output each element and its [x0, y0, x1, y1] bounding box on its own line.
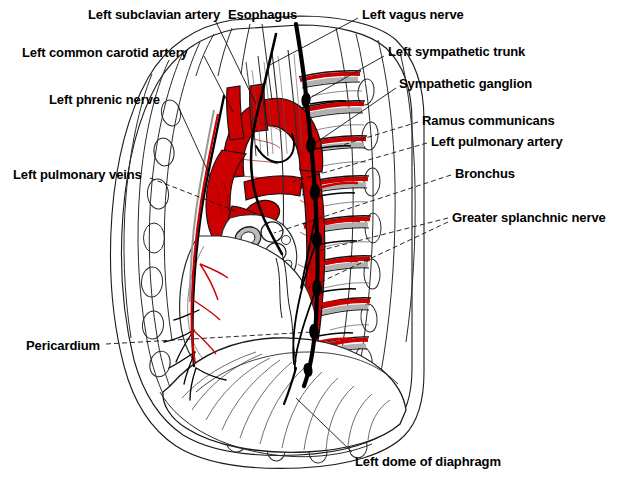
label-left-subclavian-artery: Left subclavian artery [88, 7, 220, 22]
label-left-vagus-nerve: Left vagus nerve [362, 7, 464, 22]
label-left-common-carotid-artery: Left common carotid artery [22, 45, 188, 60]
anatomy-figure-page: Left subclavian artery Esophagus Left va… [0, 0, 620, 477]
label-left-pulmonary-veins: Left pulmonary veins [13, 167, 142, 182]
label-bronchus: Bronchus [455, 166, 515, 181]
mediastinum-illustration [0, 0, 620, 477]
label-sympathetic-ganglion: Sympathetic ganglion [399, 76, 532, 91]
label-pericardium: Pericardium [26, 338, 100, 353]
label-ramus-communicans: Ramus communicans [422, 113, 555, 128]
label-greater-splanchnic-nerve: Greater splanchnic nerve [452, 210, 606, 225]
label-left-dome-of-diaphragm: Left dome of diaphragm [355, 454, 501, 469]
label-left-pulmonary-artery: Left pulmonary artery [431, 134, 563, 149]
label-left-phrenic-nerve: Left phrenic nerve [49, 92, 160, 107]
label-left-sympathetic-trunk: Left sympathetic trunk [388, 44, 525, 59]
label-esophagus: Esophagus [228, 7, 297, 22]
